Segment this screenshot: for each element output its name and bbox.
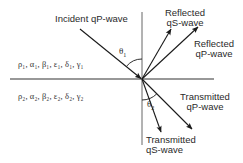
reflected-qp-line2: qP-wave [188, 49, 240, 59]
theta1-label: θ1 [119, 46, 126, 58]
theta1-subscript: 1 [123, 52, 126, 58]
reflected-qs-line2: qS-wave [160, 18, 210, 28]
reflected-qp-wave-label: Reflected qP-wave [188, 39, 240, 59]
lower-medium-parameters: ρ₂, α₂, β₂, ε₂, δ₂, γ₂ [18, 91, 84, 101]
reflected-qs-wave-label: Reflected qS-wave [160, 8, 210, 28]
incident-qp-wave-arrow [80, 29, 141, 79]
theta2-subscript: 2 [151, 105, 154, 111]
incident-qp-wave-label: Incident qP-wave [55, 14, 128, 24]
transmitted-qs-line2: qS-wave [146, 145, 206, 155]
upper-medium-parameters: ρ₁, α₁, β₁, ε₁, δ₁, γ₁ [18, 59, 84, 69]
theta2-label: θ2 [147, 99, 154, 111]
transmitted-qp-line2: qP-wave [176, 102, 234, 112]
transmitted-qs-wave-label: Transmitted qS-wave [146, 135, 206, 155]
transmitted-qp-wave-label: Transmitted qP-wave [176, 92, 234, 112]
theta1-arc [127, 59, 143, 66]
reflected-qs-wave-arrow [142, 29, 171, 79]
